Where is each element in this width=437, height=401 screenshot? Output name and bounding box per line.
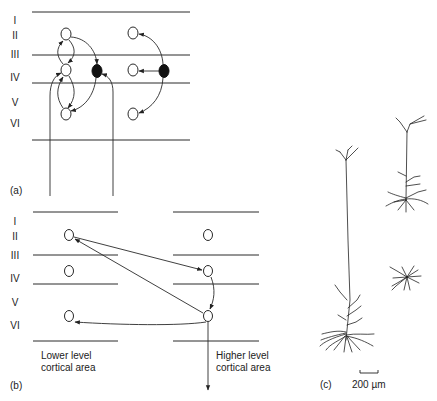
higher-area-layer-4-neuron: [204, 266, 213, 277]
layer-label-iii: III: [5, 49, 25, 61]
neuron-layer-6-left: [61, 108, 71, 120]
panel-c-label: (c): [320, 379, 332, 391]
neuron-layer-6-right: [128, 108, 138, 120]
layer-label-ii: II: [5, 231, 25, 243]
lower-area-label-line1: Lower level: [41, 350, 92, 362]
neuron-layer-2-right: [128, 27, 138, 39]
figure-canvas: [0, 0, 437, 401]
layer-label-i: I: [5, 216, 25, 228]
panel-a-left-connections: [50, 37, 113, 196]
neuron-layer-4-right: [128, 64, 138, 76]
scale-bar: [360, 370, 378, 373]
pyramidal-neuron-medium: [386, 116, 428, 212]
higher-area-label-line1: Higher level: [216, 350, 269, 362]
layer-label-ii: II: [5, 30, 25, 42]
lower-area-layer-2-neuron: [65, 230, 74, 241]
neuron-layer-2-left: [61, 28, 71, 40]
layer-label-vi: VI: [5, 320, 25, 332]
layer-label-v: V: [5, 97, 25, 109]
lower-area-label-line2: cortical area: [41, 362, 95, 374]
higher-area-layer-6-neuron: [204, 311, 213, 322]
panel-a-label: (a): [10, 185, 22, 197]
higher-area-label-line2: cortical area: [216, 362, 270, 374]
scale-bar-label: 200 µm: [352, 379, 386, 391]
lower-area-layer-6-neuron: [65, 311, 74, 322]
layer-label-v: V: [5, 297, 25, 309]
layer-label-i: I: [5, 15, 25, 27]
panel-a-right-column: [128, 27, 138, 120]
layer-label-iii: III: [5, 250, 25, 262]
neuron-layer-4-left: [61, 64, 71, 76]
lower-area-layer-4-neuron: [65, 266, 74, 277]
layer-label-iv: IV: [5, 72, 25, 84]
inhibitory-neuron-left: [92, 65, 102, 78]
stellate-neuron: [390, 266, 421, 290]
layer-label-iv: IV: [5, 273, 25, 285]
panel-b-label: (b): [10, 380, 22, 392]
layer-label-vi: VI: [5, 118, 25, 130]
pyramidal-neuron-large: [320, 146, 374, 352]
higher-area-layer-2-neuron: [204, 230, 213, 241]
inhibitory-neuron-right: [159, 65, 169, 78]
